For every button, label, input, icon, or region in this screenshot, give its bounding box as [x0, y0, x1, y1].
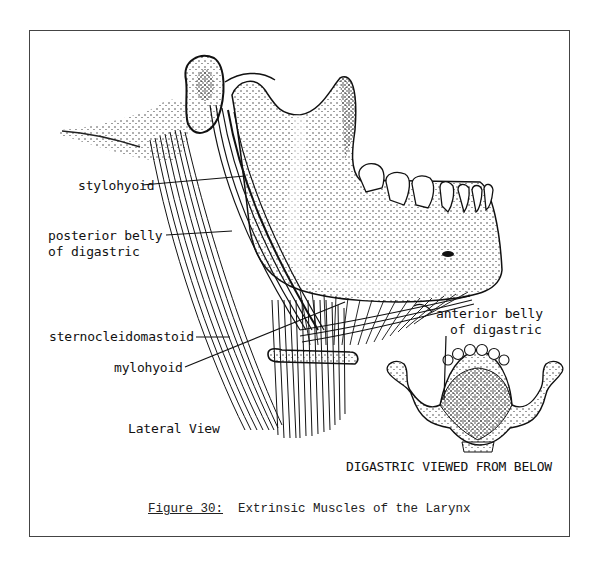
label-posterior-belly-line1: posterior belly	[48, 228, 162, 244]
label-anterior-belly-line2: of digastric	[450, 322, 542, 338]
label-stylohyoid: stylohyoid	[78, 178, 154, 194]
label-inferior-view: DIGASTRIC VIEWED FROM BELOW	[346, 459, 552, 475]
label-sternocleidomastoid: sternocleidomastoid	[49, 329, 194, 345]
inferior-view-inset	[387, 345, 563, 453]
skull-base	[60, 100, 190, 161]
figure-number: Figure 30:	[148, 502, 223, 516]
leader-posterior-belly	[166, 231, 232, 235]
label-posterior-belly-line2: of digastric	[48, 244, 140, 260]
strap-muscles	[272, 300, 345, 438]
label-anterior-belly-line1: anterior belly	[436, 306, 543, 322]
label-lateral-view: Lateral View	[128, 421, 220, 437]
figure-caption: Figure 30: Extrinsic Muscles of the Lary…	[148, 502, 471, 516]
label-mylohyoid: mylohyoid	[114, 360, 183, 376]
anatomy-illustration	[0, 0, 602, 567]
figure-title: Extrinsic Muscles of the Larynx	[238, 502, 471, 516]
hyoid-bone	[268, 349, 358, 364]
